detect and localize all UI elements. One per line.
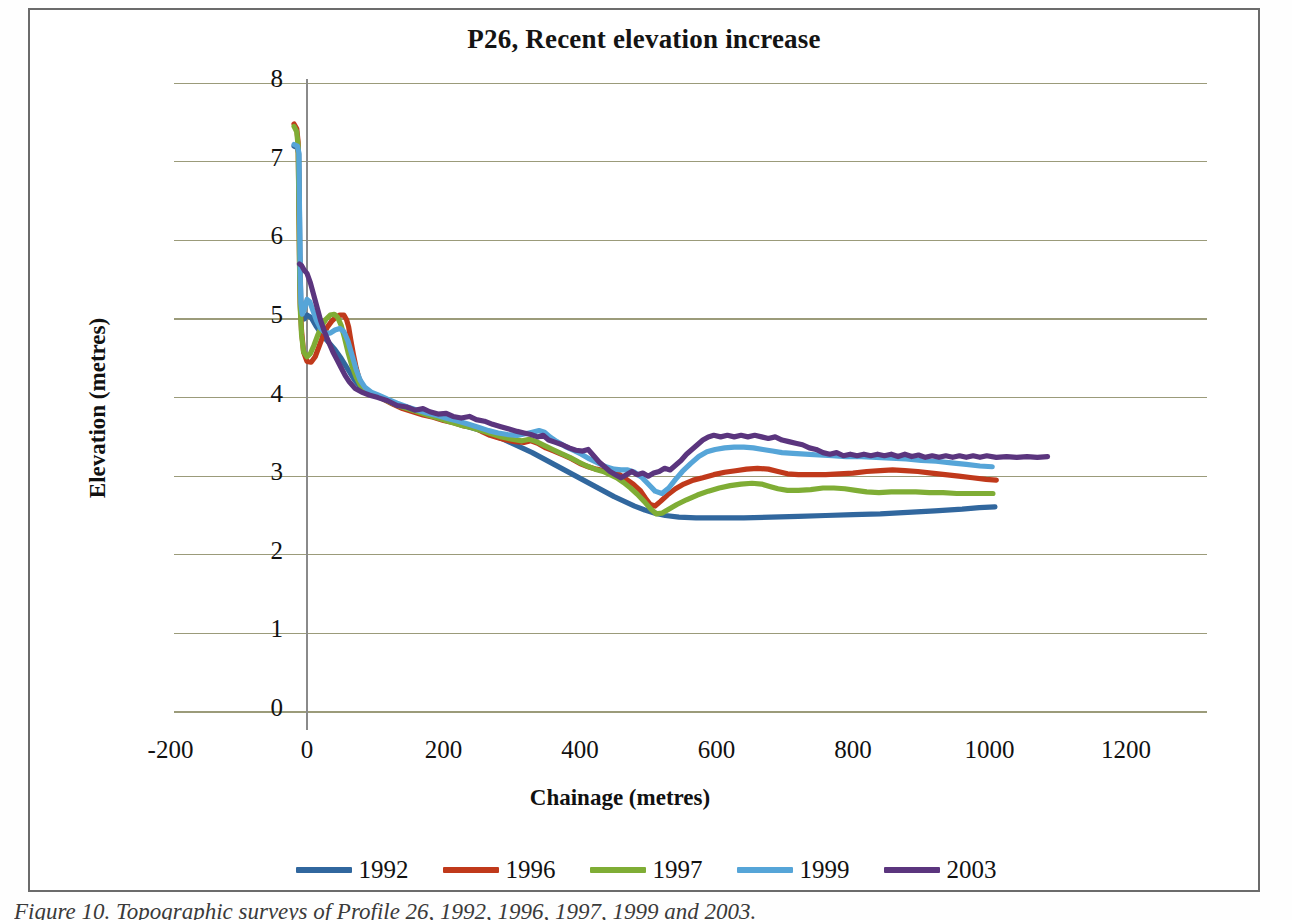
- y-tick-label-1: 1: [233, 615, 283, 643]
- legend-label-1999: 1999: [800, 856, 850, 884]
- y-tick-label-4: 4: [233, 380, 283, 408]
- x-tick-label-400: 400: [530, 736, 630, 764]
- legend-swatch-1997: [590, 867, 646, 873]
- x-tick-label-200: 200: [394, 736, 494, 764]
- legend-label-1997: 1997: [653, 856, 703, 884]
- x-tick-label-1000: 1000: [940, 736, 1040, 764]
- chart-legend: 19921996199719992003: [0, 856, 1292, 884]
- x-tick-label-800: 800: [803, 736, 903, 764]
- figure-page: P26, Recent elevation increase Elevation…: [0, 0, 1292, 920]
- legend-item-1997[interactable]: 1997: [590, 856, 703, 884]
- legend-item-1992[interactable]: 1992: [296, 856, 409, 884]
- legend-item-1999[interactable]: 1999: [737, 856, 850, 884]
- x-tick-label--200: -200: [121, 736, 221, 764]
- legend-label-1992: 1992: [359, 856, 409, 884]
- y-tick-label-8: 8: [233, 65, 283, 93]
- x-tick-label-0: 0: [257, 736, 357, 764]
- y-tick-label-2: 2: [233, 537, 283, 565]
- y-axis-label: Elevation (metres): [85, 248, 111, 568]
- x-tick-label-1200: 1200: [1076, 736, 1176, 764]
- legend-item-2003[interactable]: 2003: [884, 856, 997, 884]
- legend-label-1996: 1996: [506, 856, 556, 884]
- legend-item-1996[interactable]: 1996: [443, 856, 556, 884]
- chart-title: P26, Recent elevation increase: [30, 24, 1258, 55]
- y-tick-label-7: 7: [233, 144, 283, 172]
- y-tick-label-6: 6: [233, 222, 283, 250]
- x-axis-label: Chainage (metres): [300, 785, 940, 811]
- y-tick-label-0: 0: [233, 694, 283, 722]
- legend-swatch-2003: [884, 867, 940, 873]
- legend-swatch-1996: [443, 867, 499, 873]
- legend-swatch-1992: [296, 867, 352, 873]
- y-tick-label-3: 3: [233, 458, 283, 486]
- figure-caption: Figure 10. Topographic surveys of Profil…: [14, 899, 1274, 920]
- legend-label-2003: 2003: [947, 856, 997, 884]
- y-tick-label-5: 5: [233, 301, 283, 329]
- legend-swatch-1999: [737, 867, 793, 873]
- x-tick-label-600: 600: [667, 736, 767, 764]
